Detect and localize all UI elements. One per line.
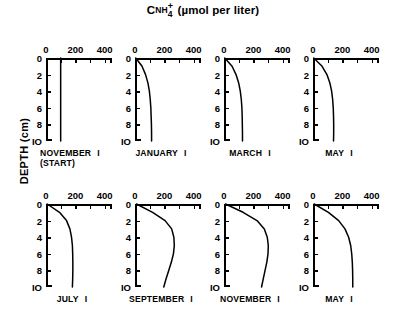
y-tick-label-2: 2 [304, 69, 309, 80]
panel-january-01: 020040002468IOJANUARYI [117, 32, 205, 167]
y-tick-label-4: 4 [215, 232, 220, 243]
x-tick-label-400: 400 [364, 44, 380, 55]
x-tick-label-400: 400 [186, 190, 202, 201]
y-tick-label-0: 0 [215, 53, 220, 64]
y-tick-label-4: 4 [126, 232, 131, 243]
x-tick-label-0: 0 [221, 44, 226, 55]
panel-label-text: JULY [57, 294, 79, 304]
plot-area: 020040002468IO [135, 204, 201, 287]
x-tick-label-200: 200 [334, 190, 350, 201]
x-tick-label-200: 200 [334, 44, 350, 55]
panel-label-tickmark: I [85, 294, 88, 304]
x-tick-label-400: 400 [97, 44, 113, 55]
panel-label-text: NOVEMBER [40, 148, 91, 158]
chart-title-sup-plus: + [168, 1, 173, 11]
panel-label-text: JANUARY [135, 148, 178, 158]
profile-curve [135, 58, 205, 145]
y-tick-label-4: 4 [37, 232, 42, 243]
y-tick-label-8: 8 [304, 265, 309, 276]
x-tick-label-0: 0 [132, 190, 137, 201]
x-tick-label-400: 400 [275, 190, 291, 201]
panel-november-12: 020040002468IONOVEMBERI [206, 178, 294, 313]
plot-area: 020040002468IO [46, 58, 112, 141]
panel-label: NOVEMBERI [206, 294, 294, 304]
profile-curve [46, 204, 116, 291]
y-tick-label-10: IO [210, 136, 220, 147]
y-tick-label-0: 0 [126, 53, 131, 64]
y-tick-label-10: IO [121, 136, 131, 147]
x-tick-label-200: 200 [67, 190, 83, 201]
panel-november-00: 020040002468IONOVEMBERI(START) [28, 32, 116, 167]
x-tick-label-200: 200 [67, 44, 83, 55]
profile-curve [135, 204, 205, 291]
y-tick-label-0: 0 [215, 199, 220, 210]
y-tick-label-10: IO [32, 136, 42, 147]
x-tick-label-200: 200 [245, 44, 261, 55]
x-tick-label-400: 400 [186, 44, 202, 55]
y-tick-label-2: 2 [215, 69, 220, 80]
panel-label-tickmark: I [268, 148, 271, 158]
profile-curve [224, 204, 294, 291]
y-tick-label-6: 6 [304, 102, 309, 113]
x-tick-label-200: 200 [156, 190, 172, 201]
chart-title: CNH4+ (µmol per liter) [0, 2, 406, 16]
panel-label: MAYI [295, 294, 383, 304]
profile-curve [224, 58, 294, 145]
y-tick-label-2: 2 [37, 69, 42, 80]
y-tick-label-8: 8 [126, 265, 131, 276]
plot-area: 020040002468IO [313, 204, 379, 287]
panel-label: JANUARYI [117, 148, 205, 158]
y-tick-label-4: 4 [304, 86, 309, 97]
panel-label-text: MARCH [229, 148, 262, 158]
x-tick-label-0: 0 [132, 44, 137, 55]
y-tick-label-8: 8 [304, 119, 309, 130]
y-tick-label-2: 2 [126, 215, 131, 226]
y-tick-label-4: 4 [215, 86, 220, 97]
y-tick-label-4: 4 [37, 86, 42, 97]
y-tick-label-6: 6 [215, 102, 220, 113]
x-tick-label-400: 400 [364, 190, 380, 201]
y-tick-label-8: 8 [37, 119, 42, 130]
x-tick-label-400: 400 [275, 44, 291, 55]
panel-label-text: NOVEMBER [220, 294, 271, 304]
panel-label-tickmark: I [350, 294, 353, 304]
chart-title-symbol: C [147, 4, 155, 16]
x-tick-label-0: 0 [43, 190, 48, 201]
panel-july-10: 020040002468IOJULYI [28, 178, 116, 313]
panel-label-tickmark: I [97, 148, 100, 158]
panel-label-tickmark: I [190, 294, 193, 304]
panel-sublabel: (START) [28, 158, 116, 168]
panel-label-text: MAY [325, 148, 344, 158]
panel-label: JULYI [28, 294, 116, 304]
plot-area: 020040002468IO [313, 58, 379, 141]
y-tick-label-2: 2 [304, 215, 309, 226]
profile-curve [313, 204, 383, 291]
panel-label-tickmark: I [277, 294, 280, 304]
y-tick-label-10: IO [299, 282, 309, 293]
plot-area: 020040002468IO [135, 58, 201, 141]
y-tick-label-0: 0 [304, 53, 309, 64]
y-tick-label-6: 6 [37, 248, 42, 259]
panel-may-03: 020040002468IOMAYI [295, 32, 383, 167]
plot-area: 020040002468IO [224, 204, 290, 287]
y-tick-label-4: 4 [126, 86, 131, 97]
y-tick-label-2: 2 [37, 215, 42, 226]
y-tick-label-10: IO [210, 282, 220, 293]
chart-title-sub-nh: NH [155, 5, 167, 15]
x-tick-label-200: 200 [156, 44, 172, 55]
y-tick-label-4: 4 [304, 232, 309, 243]
x-tick-label-200: 200 [245, 190, 261, 201]
plot-area: 020040002468IO [46, 204, 112, 287]
x-tick-label-400: 400 [97, 190, 113, 201]
y-tick-label-0: 0 [37, 199, 42, 210]
y-tick-label-6: 6 [126, 102, 131, 113]
y-tick-label-2: 2 [215, 215, 220, 226]
x-tick-label-0: 0 [221, 190, 226, 201]
panel-label-text: SEPTEMBER [129, 294, 184, 304]
panel-label: MARCHI [206, 148, 294, 158]
y-tick-label-2: 2 [126, 69, 131, 80]
y-tick-label-10: IO [299, 136, 309, 147]
panel-label-tickmark: I [350, 148, 353, 158]
y-tick-label-0: 0 [304, 199, 309, 210]
y-tick-label-6: 6 [126, 248, 131, 259]
